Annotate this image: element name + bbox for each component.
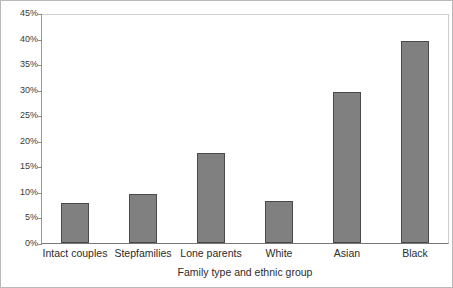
bar <box>129 194 157 243</box>
x-tick-label: Asian <box>313 247 381 260</box>
y-tick-label: 15% <box>20 162 38 171</box>
y-tick-label: 0% <box>25 239 38 248</box>
bar <box>401 41 429 243</box>
y-tick-label: 35% <box>20 60 38 69</box>
y-tick-mark <box>38 167 42 168</box>
y-tick-mark <box>38 218 42 219</box>
y-tick-mark <box>38 116 42 117</box>
y-tick-mark <box>38 14 42 15</box>
bar <box>265 201 293 243</box>
y-tick-mark <box>38 244 42 245</box>
y-tick-label: 40% <box>20 35 38 44</box>
y-tick-mark <box>38 193 42 194</box>
y-tick-mark <box>38 142 42 143</box>
y-tick-label: 20% <box>20 137 38 146</box>
plot-area <box>41 14 449 244</box>
bars-layer <box>42 15 448 243</box>
y-tick-label: 10% <box>20 188 38 197</box>
bar <box>61 203 89 243</box>
y-tick-mark <box>38 91 42 92</box>
bar-chart: 0%5%10%15%20%25%30%35%40%45% Intact coup… <box>0 0 453 288</box>
y-tick-label: 5% <box>25 213 38 222</box>
y-tick-label: 30% <box>20 86 38 95</box>
x-tick-label: White <box>245 247 313 260</box>
x-axis: Intact couplesStepfamiliesLone parentsWh… <box>41 247 449 263</box>
y-tick-mark <box>38 65 42 66</box>
y-tick-label: 45% <box>20 9 38 18</box>
y-tick-mark <box>38 40 42 41</box>
x-tick-label: Intact couples <box>41 247 109 260</box>
x-tick-label: Black <box>381 247 449 260</box>
y-tick-label: 25% <box>20 111 38 120</box>
bar <box>197 153 225 243</box>
y-axis: 0%5%10%15%20%25%30%35%40%45% <box>1 1 38 288</box>
x-tick-label: Lone parents <box>177 247 245 260</box>
x-tick-label: Stepfamilies <box>109 247 177 260</box>
x-axis-title: Family type and ethnic group <box>41 266 449 278</box>
bar <box>333 92 361 243</box>
